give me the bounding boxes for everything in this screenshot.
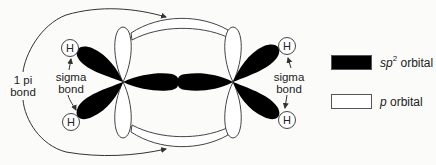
legend-swatch-p — [331, 94, 372, 109]
hydrogen-label: H — [278, 37, 296, 55]
legend-swatch-sp2 — [331, 55, 372, 70]
legend-label-sp2: sp2 orbital — [380, 56, 433, 70]
pi-arrow-top-left-arc — [23, 15, 66, 72]
hydrogen-label: H — [62, 113, 80, 131]
sigma-bond-label-right: sigma bond — [270, 71, 308, 95]
sigma-arrow-left-up — [69, 59, 71, 70]
sigma-arrow-right-down — [285, 95, 287, 108]
sigma-bond-label-left: sigma bond — [52, 71, 90, 95]
sigma-arrow-left-down — [68, 95, 76, 110]
pi-band-top — [131, 18, 228, 40]
hydrogen-label: H — [278, 111, 296, 129]
sp2-sigma-cc-bond — [123, 73, 233, 90]
sigma-arrow-right-up — [288, 58, 291, 68]
legend-label-p: p orbital — [380, 95, 423, 109]
orbital-diagram: H H H H 1 pi bond sigma bond sigma bond … — [0, 0, 436, 165]
pi-arrow-top — [66, 9, 166, 17]
sp2-orbitals — [77, 44, 280, 119]
pi-bond-label: 1 pi bond — [8, 74, 38, 98]
pi-arrow-bottom-left-arc — [23, 100, 66, 152]
pi-arrow-bottom — [66, 149, 166, 156]
hydrogen-label: H — [61, 39, 79, 57]
pi-band-bottom — [131, 125, 228, 147]
